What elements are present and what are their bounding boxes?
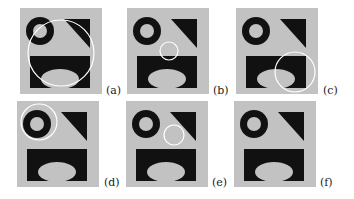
panel-c xyxy=(236,8,318,94)
ellipse-cutout xyxy=(147,162,185,182)
panel-image xyxy=(234,101,316,187)
panel-a xyxy=(20,8,102,94)
ellipse-cutout xyxy=(148,69,186,89)
panel-image xyxy=(126,101,208,187)
ring-inner xyxy=(247,117,261,131)
panel-label-b: (b) xyxy=(213,84,229,97)
panel-f xyxy=(234,101,316,187)
ring-inner xyxy=(139,117,153,131)
ring-inner xyxy=(33,24,47,38)
panel-e xyxy=(126,101,208,187)
panel-image xyxy=(20,8,102,94)
panel-label-f: (f) xyxy=(320,176,333,189)
panel-b xyxy=(127,8,209,94)
panel-image xyxy=(236,8,318,94)
panel-d xyxy=(17,101,99,187)
ellipse-cutout xyxy=(38,162,76,182)
ring-inner xyxy=(249,24,263,38)
ellipse-cutout xyxy=(255,162,293,182)
panel-label-a: (a) xyxy=(106,84,121,97)
panel-image xyxy=(127,8,209,94)
panel-image xyxy=(17,101,99,187)
ring-inner xyxy=(140,24,154,38)
panel-label-e: (e) xyxy=(212,176,227,189)
panel-label-d: (d) xyxy=(104,176,120,189)
panel-label-c: (c) xyxy=(323,84,338,97)
ring-inner xyxy=(30,117,44,131)
